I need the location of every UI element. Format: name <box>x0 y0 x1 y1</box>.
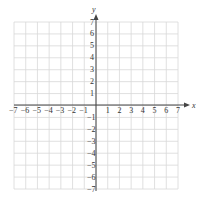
y-tick-label: 1 <box>90 89 94 98</box>
x-tick-label: −6 <box>21 106 30 115</box>
x-tick-label: −4 <box>44 106 53 115</box>
y-axis-label: y <box>91 5 96 14</box>
x-tick-label: 6 <box>164 106 168 115</box>
x-tick-label: 5 <box>153 106 157 115</box>
y-tick-label: −4 <box>87 149 96 158</box>
y-tick-label: −2 <box>87 125 96 134</box>
x-tick-label: −7 <box>9 106 18 115</box>
x-tick-label: 4 <box>141 106 145 115</box>
coordinate-plane: x y −7−6−5−4−3−2−11234567 7654321−1−2−3−… <box>0 0 202 202</box>
x-axis-arrow-icon <box>184 103 190 108</box>
y-tick-label: −5 <box>87 161 96 170</box>
y-axis-arrow-icon <box>94 14 99 20</box>
y-tick-label: −1 <box>87 113 96 122</box>
x-axis-label: x <box>191 101 196 110</box>
axes: x y <box>14 5 196 191</box>
x-tick-label: 1 <box>106 106 110 115</box>
y-tick-label: 2 <box>90 77 94 86</box>
y-tick-label: 3 <box>90 65 94 74</box>
y-tick-label: 5 <box>90 41 94 50</box>
y-tick-label: 7 <box>90 18 94 27</box>
x-tick-label: −5 <box>32 106 41 115</box>
y-tick-label: −3 <box>87 137 96 146</box>
y-tick-label: 4 <box>90 53 94 62</box>
y-tick-label: −6 <box>87 173 96 182</box>
y-tick-label: 6 <box>90 29 94 38</box>
y-tick-label: −7 <box>87 185 96 194</box>
x-tick-label: 2 <box>117 106 121 115</box>
x-tick-label: 3 <box>129 106 133 115</box>
x-tick-label: −3 <box>56 106 65 115</box>
x-tick-label: −2 <box>68 106 77 115</box>
x-tick-label: 7 <box>176 106 180 115</box>
